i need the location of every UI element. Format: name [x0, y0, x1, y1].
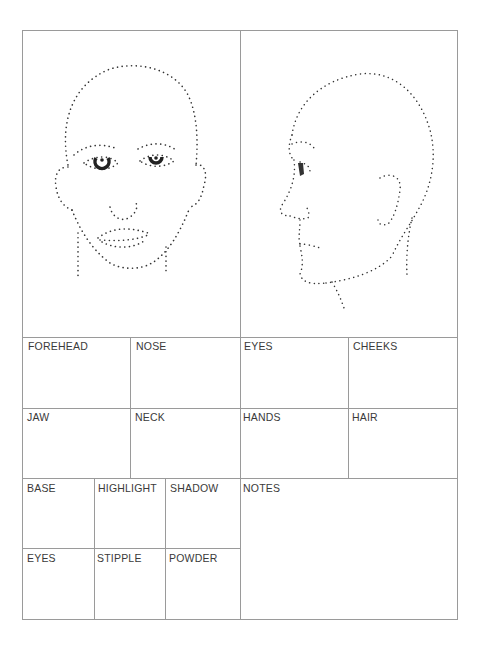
cell-hands[interactable]: [241, 423, 347, 477]
label-hair: HAIR: [352, 411, 378, 423]
cell-base[interactable]: [23, 494, 93, 547]
cell-stipple[interactable]: [95, 564, 164, 619]
cell-notes[interactable]: [241, 494, 457, 619]
cell-powder[interactable]: [166, 564, 239, 619]
label-eyes-product: EYES: [27, 552, 56, 564]
cell-nose[interactable]: [131, 352, 239, 407]
cell-eyes-face[interactable]: [241, 352, 347, 407]
front-face-illustration: [40, 55, 220, 285]
label-hands: HANDS: [243, 411, 281, 423]
label-stipple: STIPPLE: [97, 552, 142, 564]
cell-eyes-product[interactable]: [23, 564, 93, 619]
label-nose: NOSE: [136, 340, 167, 352]
label-jaw: JAW: [27, 411, 49, 423]
cell-hair[interactable]: [349, 423, 457, 477]
label-highlight: HIGHLIGHT: [98, 482, 157, 494]
front-eye-irises: [95, 156, 162, 168]
cell-jaw[interactable]: [23, 423, 129, 477]
label-powder: POWDER: [169, 552, 217, 564]
divider-row4-left: [22, 548, 240, 549]
divider-row2: [22, 408, 458, 409]
cell-shadow[interactable]: [166, 494, 239, 547]
profile-eye: [298, 163, 304, 176]
divider-illustrations-bottom: [22, 337, 458, 338]
profile-face-illustration: [270, 60, 450, 310]
cell-highlight[interactable]: [95, 494, 164, 547]
label-base: BASE: [27, 482, 56, 494]
label-shadow: SHADOW: [170, 482, 218, 494]
cell-forehead[interactable]: [23, 352, 129, 407]
label-notes: NOTES: [243, 482, 280, 494]
label-cheeks: CHEEKS: [353, 340, 397, 352]
divider-row3: [22, 478, 458, 479]
label-forehead: FOREHEAD: [28, 340, 88, 352]
label-neck: NECK: [135, 411, 165, 423]
cell-cheeks[interactable]: [349, 352, 457, 407]
label-eyes-face: EYES: [244, 340, 273, 352]
cell-neck[interactable]: [131, 423, 239, 477]
